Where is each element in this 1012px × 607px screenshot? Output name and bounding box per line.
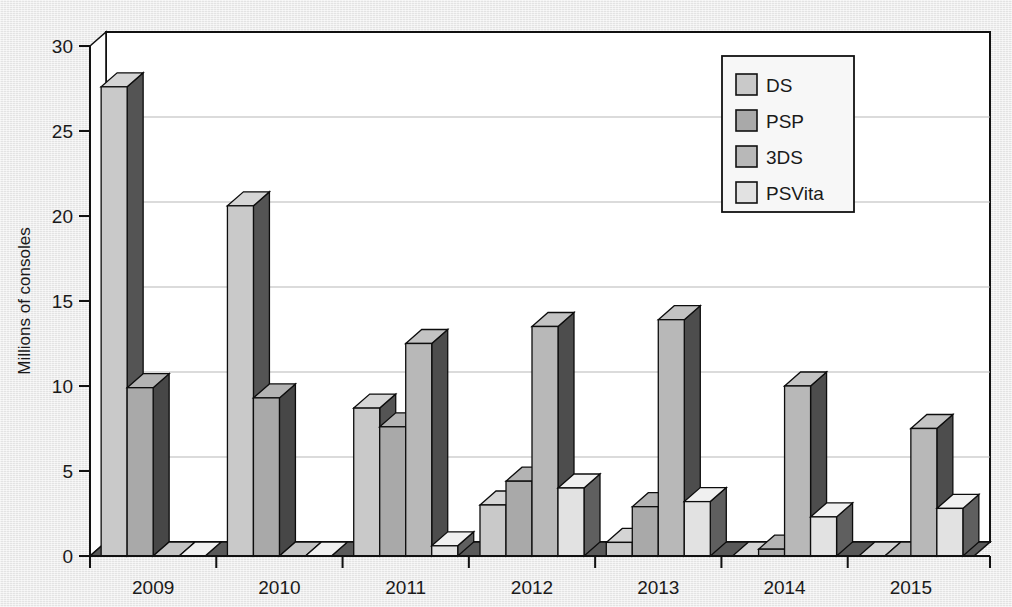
y-axis-tick-label: 25 (52, 121, 73, 142)
legend-label-DS: DS (766, 75, 792, 96)
legend-swatch-DS (736, 74, 757, 95)
x-axis-tick-label: 2012 (511, 577, 553, 598)
bar-front-face (480, 505, 506, 556)
x-axis-tick-label: 2013 (637, 577, 679, 598)
chart-canvas: 051015202530Millions of consoles20092010… (0, 0, 1012, 607)
legend-item-3DS[interactable]: 3DS (736, 146, 803, 168)
legend-swatch-PSVita (736, 182, 757, 203)
y-axis-tick-label: 20 (52, 206, 73, 227)
bar-2009-PSP (127, 374, 169, 556)
y-axis-tick-label: 10 (52, 376, 73, 397)
bar-2015-PSVita (937, 494, 979, 556)
legend-swatch-PSP (736, 110, 757, 131)
bar-front-face (101, 87, 127, 556)
bar-front-face (532, 327, 558, 557)
legend-swatch-3DS (736, 146, 757, 167)
x-axis-tick-label: 2014 (763, 577, 806, 598)
bar-side-face (153, 374, 169, 556)
bar-front-face (911, 429, 937, 557)
bar-front-face (127, 388, 153, 556)
bar-2012-PSVita (558, 474, 600, 556)
bar-side-face (279, 384, 295, 556)
legend-item-PSP[interactable]: PSP (736, 110, 804, 132)
bar-front-face (406, 344, 432, 557)
bar-chart-figure: 051015202530Millions of consoles20092010… (0, 0, 1012, 607)
x-axis-tick-label: 2010 (258, 577, 300, 598)
bar-front-face (684, 502, 710, 556)
x-axis-tick-label: 2011 (385, 577, 426, 598)
bar-front-face (558, 488, 584, 556)
y-axis-tick-label: 30 (52, 36, 73, 57)
legend: DSPSP3DSPSVita (722, 56, 854, 212)
y-axis-tick-label: 15 (52, 291, 73, 312)
y-axis: 051015202530 (52, 36, 90, 567)
x-axis-tick-label: 2015 (890, 577, 932, 598)
x-axis-tick-label: 2009 (132, 577, 174, 598)
bar-front-face (432, 546, 458, 556)
bar-front-face (658, 320, 684, 556)
bar-front-face (354, 408, 380, 556)
bar-front-face (227, 206, 253, 556)
legend-label-PSVita: PSVita (766, 183, 824, 204)
bar-front-face (506, 481, 532, 556)
bar-front-face (811, 517, 837, 556)
x-axis: 2009201020112012201320142015 (90, 556, 990, 598)
bar-side-face (432, 330, 448, 557)
y-axis-title: Millions of consoles (15, 227, 34, 374)
legend-item-PSVita[interactable]: PSVita (736, 182, 824, 204)
bar-front-face (759, 549, 785, 556)
bar-front-face (606, 542, 632, 556)
bar-front-face (937, 508, 963, 556)
y-axis-tick-label: 0 (62, 546, 73, 567)
legend-label-3DS: 3DS (766, 147, 803, 168)
bar-2010-PSP (253, 384, 295, 556)
y-axis-tick-label: 5 (62, 461, 73, 482)
bar-front-face (632, 507, 658, 556)
bar-front-face (253, 398, 279, 556)
bar-2011-3DS (406, 330, 448, 557)
bar-2014-PSVita (811, 503, 853, 556)
bar-2013-PSVita (684, 488, 726, 556)
bar-front-face (380, 427, 406, 556)
bar-front-face (785, 386, 811, 556)
legend-label-PSP: PSP (766, 111, 804, 132)
